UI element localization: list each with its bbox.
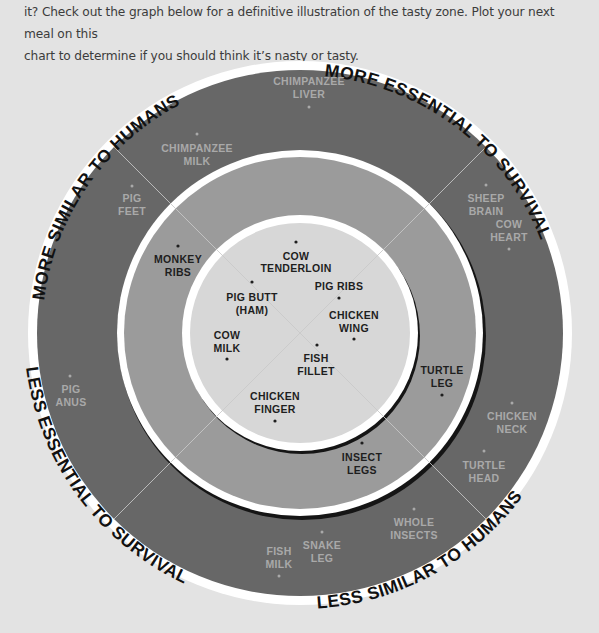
svg-text:LEGS: LEGS bbox=[347, 464, 377, 476]
svg-text:COW: COW bbox=[496, 218, 523, 230]
svg-text:PIG BUTT: PIG BUTT bbox=[226, 291, 278, 303]
data-point bbox=[352, 337, 355, 340]
data-point bbox=[131, 185, 134, 188]
svg-text:NECK: NECK bbox=[497, 423, 528, 435]
svg-text:CHICKEN: CHICKEN bbox=[329, 309, 379, 321]
tasty-zone-chart: MORE SIMILAR TO HUMANS MORE ESSENTIAL TO… bbox=[0, 0, 599, 633]
data-point bbox=[225, 357, 228, 360]
svg-text:TENDERLOIN: TENDERLOIN bbox=[260, 262, 331, 274]
svg-text:MONKEY: MONKEY bbox=[154, 253, 202, 265]
svg-text:LIVER: LIVER bbox=[293, 88, 326, 100]
svg-text:MILK: MILK bbox=[266, 558, 293, 570]
data-point bbox=[278, 575, 281, 578]
data-point bbox=[483, 450, 486, 453]
svg-text:COW: COW bbox=[214, 329, 241, 341]
svg-text:HEAD: HEAD bbox=[469, 472, 500, 484]
svg-text:LEG: LEG bbox=[311, 552, 334, 564]
svg-text:RIBS: RIBS bbox=[165, 266, 191, 278]
svg-text:CHIMPANZEE: CHIMPANZEE bbox=[161, 142, 233, 154]
svg-text:MILK: MILK bbox=[214, 342, 241, 354]
svg-text:PIG: PIG bbox=[123, 192, 142, 204]
svg-text:FISH: FISH bbox=[266, 545, 291, 557]
svg-text:FISH: FISH bbox=[303, 352, 328, 364]
svg-text:TURTLE: TURTLE bbox=[462, 459, 505, 471]
data-point bbox=[440, 393, 443, 396]
data-point bbox=[69, 375, 72, 378]
svg-text:COW: COW bbox=[283, 250, 310, 262]
svg-text:PIG RIBS: PIG RIBS bbox=[315, 280, 364, 292]
svg-text:ANUS: ANUS bbox=[56, 396, 87, 408]
data-point bbox=[413, 508, 416, 511]
data-point bbox=[321, 531, 324, 534]
svg-text:PIG: PIG bbox=[62, 383, 81, 395]
svg-text:HEART: HEART bbox=[490, 231, 528, 243]
svg-text:WHOLE: WHOLE bbox=[394, 516, 435, 528]
svg-text:LEG: LEG bbox=[431, 377, 454, 389]
svg-text:CHIMPANZEE: CHIMPANZEE bbox=[273, 75, 345, 87]
svg-text:WING: WING bbox=[339, 322, 369, 334]
data-point bbox=[337, 296, 340, 299]
data-point bbox=[511, 402, 514, 405]
svg-text:FINGER: FINGER bbox=[254, 403, 296, 415]
svg-text:BRAIN: BRAIN bbox=[469, 205, 504, 217]
svg-text:FILLET: FILLET bbox=[297, 365, 335, 377]
data-point bbox=[508, 248, 511, 251]
data-point bbox=[176, 244, 179, 247]
data-point bbox=[273, 419, 276, 422]
data-point bbox=[315, 343, 318, 346]
data-point bbox=[250, 280, 253, 283]
svg-text:TURTLE: TURTLE bbox=[420, 364, 463, 376]
svg-text:CHICKEN: CHICKEN bbox=[487, 410, 537, 422]
svg-text:CHICKEN: CHICKEN bbox=[250, 390, 300, 402]
svg-text:INSECTS: INSECTS bbox=[390, 529, 438, 541]
svg-text:FEET: FEET bbox=[118, 205, 146, 217]
svg-text:SHEEP: SHEEP bbox=[467, 192, 504, 204]
data-point bbox=[308, 106, 311, 109]
data-point bbox=[196, 133, 199, 136]
svg-text:SNAKE: SNAKE bbox=[303, 539, 341, 551]
svg-text:INSECT: INSECT bbox=[342, 451, 383, 463]
svg-text:MILK: MILK bbox=[184, 155, 211, 167]
data-point bbox=[294, 240, 297, 243]
data-point bbox=[360, 441, 363, 444]
data-point bbox=[485, 184, 488, 187]
svg-text:(HAM): (HAM) bbox=[236, 304, 268, 316]
